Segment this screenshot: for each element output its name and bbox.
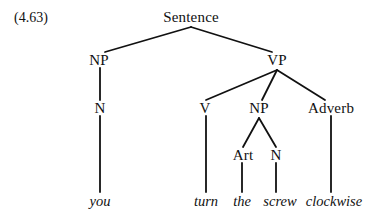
tree-node-n-subject: N bbox=[94, 101, 105, 116]
tree-leaf-turn: turn bbox=[194, 194, 218, 209]
tree-node-np-object: NP bbox=[249, 101, 269, 116]
edge-vp-v bbox=[206, 70, 277, 100]
edge-vp-adverb bbox=[277, 70, 325, 100]
tree-node-v: V bbox=[199, 101, 210, 116]
tree-node-art: Art bbox=[233, 148, 254, 163]
tree-leaf-clockwise: clockwise bbox=[306, 194, 362, 209]
edge-sentence-vp bbox=[191, 27, 272, 52]
edge-np-art bbox=[243, 118, 259, 147]
edge-np-n2 bbox=[259, 118, 276, 147]
tree-node-vp: VP bbox=[267, 53, 287, 68]
tree-node-adverb: Adverb bbox=[308, 101, 354, 116]
tree-leaf-you: you bbox=[90, 194, 111, 209]
tree-leaf-the: the bbox=[233, 194, 251, 209]
figure-canvas: (4.63) SentenceNPVPNVNPAdverbArtN youtur… bbox=[0, 0, 373, 221]
tree-leaf-screw: screw bbox=[263, 194, 296, 209]
tree-node-root-sentence: Sentence bbox=[163, 10, 219, 25]
tree-node-np-subject: NP bbox=[89, 53, 109, 68]
tree-node-n-object: N bbox=[270, 148, 281, 163]
edge-sentence-np bbox=[105, 27, 191, 52]
